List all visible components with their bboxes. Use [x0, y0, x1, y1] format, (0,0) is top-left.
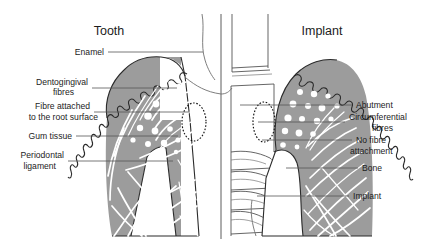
collar-band-3	[232, 74, 272, 76]
collar-band-1	[232, 66, 268, 68]
label-abutment: Abutment	[356, 100, 393, 110]
gum-surface-curve-right	[221, 88, 232, 94]
label-enamel: Enamel	[75, 47, 104, 57]
implant-bottom-curve	[251, 200, 256, 236]
label-circumferential-fibres-line1: Circumferential	[349, 112, 407, 122]
dental-comparison-figure: Tooth Implant Enamel Dentogingival fibre…	[0, 0, 427, 245]
label-fibre-attached-line1: Fibre attached	[35, 101, 90, 111]
label-no-fibre-attachment-line1: No fibre	[356, 135, 386, 145]
tooth-root-border-right	[185, 76, 199, 236]
label-dentogingival-fibres-line2: fibres	[53, 87, 74, 97]
label-gum-tissue: Gum tissue	[29, 131, 73, 141]
label-implant: Implant	[353, 191, 382, 201]
panel-title-tooth: Tooth	[94, 24, 125, 38]
label-dentogingival-fibres-line1: Dentogingival	[36, 77, 88, 87]
label-periodontal-ligament-line2: ligament	[24, 161, 57, 171]
gum-surface-curve-left	[186, 78, 221, 94]
label-fibre-attached-line2: to the root surface	[29, 112, 98, 122]
label-bone: Bone	[362, 163, 382, 173]
collar-band-4	[231, 84, 274, 86]
label-no-fibre-attachment-line2: attachment	[350, 146, 393, 156]
crown-silhouette-curve	[202, 14, 215, 80]
collar-band-2	[232, 70, 270, 72]
figure-canvas: Tooth Implant Enamel Dentogingival fibre…	[0, 0, 427, 245]
panel-title-implant: Implant	[302, 24, 344, 38]
label-periodontal-ligament-line1: Periodontal	[21, 150, 65, 160]
label-circumferential-fibres-line2: fibres	[372, 123, 393, 133]
